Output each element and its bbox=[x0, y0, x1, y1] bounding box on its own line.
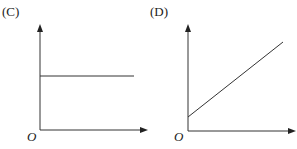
graphs bbox=[0, 0, 297, 149]
panel-d-x-arrow-icon bbox=[288, 128, 296, 134]
panel-c-y-arrow-icon bbox=[37, 24, 43, 32]
panel-c-x-arrow-icon bbox=[140, 127, 148, 133]
panel-d-graph-line bbox=[188, 42, 283, 117]
panel-d-y-arrow-icon bbox=[185, 24, 191, 32]
